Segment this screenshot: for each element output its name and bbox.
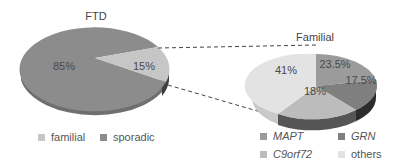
mapt-value-label: 23.5%: [319, 58, 350, 70]
ftd-title: FTD: [85, 10, 106, 22]
legend-familial: familial: [38, 131, 85, 143]
legend-c9orf72-label: C9orf72: [273, 148, 312, 160]
familial-pie: 23.5% 17.5% 18% 41%: [245, 54, 377, 131]
familial-value-label: 15%: [133, 60, 155, 72]
legend-grn: GRN: [338, 130, 375, 142]
connector-line-top: [158, 45, 318, 48]
others-swatch: [338, 151, 345, 158]
c9orf72-swatch: [260, 151, 267, 158]
familial-swatch: [38, 134, 45, 141]
familial-title: Familial: [296, 31, 334, 43]
legend-grn-label: GRN: [351, 130, 375, 142]
c9orf72-value-label: 18%: [304, 85, 326, 97]
legend-c9orf72: C9orf72: [260, 148, 312, 160]
legend-mapt: MAPT: [260, 130, 304, 142]
legend-mapt-label: MAPT: [273, 130, 304, 142]
legend-others-label: others: [351, 148, 382, 160]
legend-sporadic-label: sporadic: [113, 131, 155, 143]
sporadic-swatch: [100, 134, 107, 141]
legend-others: others: [338, 148, 382, 160]
sporadic-value-label: 85%: [53, 60, 75, 72]
ftd-pie: 85% 15%: [19, 27, 169, 115]
legend-familial-label: familial: [51, 131, 85, 143]
grn-swatch: [338, 133, 345, 140]
mapt-swatch: [260, 133, 267, 140]
legend-sporadic: sporadic: [100, 131, 155, 143]
others-value-label: 41%: [275, 64, 297, 76]
grn-value-label: 17.5%: [345, 74, 376, 86]
